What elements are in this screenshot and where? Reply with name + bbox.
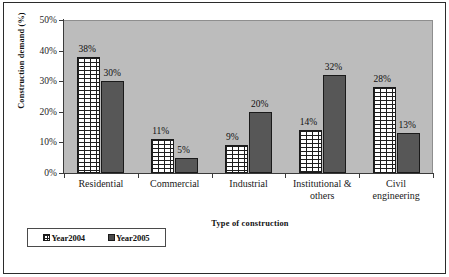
legend-item-year2005: Year2005	[108, 233, 150, 243]
category-label-civil-engineering: Civilengineering	[353, 178, 439, 201]
legend-swatch-year2005-icon	[108, 234, 115, 241]
bar-year2005-commercial	[175, 158, 198, 173]
y-axis-tick-label: 0%	[23, 169, 57, 179]
bar-value-label: 5%	[177, 146, 190, 156]
bar-year2005-institutional-others	[323, 75, 346, 173]
bar-year2004-institutional-others	[299, 130, 322, 173]
y-axis-tick	[59, 81, 64, 82]
bar-year2004-industrial	[225, 145, 248, 173]
x-axis-line	[63, 173, 434, 174]
bar-value-label: 28%	[374, 75, 391, 85]
bar-year2004-commercial	[151, 139, 174, 173]
y-axis-tick-label: 10%	[23, 138, 57, 148]
x-axis-title: Type of construction	[160, 219, 340, 228]
y-axis-tick	[59, 142, 64, 143]
y-axis-tick-label: 40%	[23, 47, 57, 57]
y-axis-title: Construction demand (%)	[17, 0, 26, 126]
y-axis-line	[63, 19, 64, 174]
bar-value-label: 11%	[152, 127, 169, 137]
bar-value-label: 13%	[399, 121, 416, 131]
y-axis-tick-label: 50%	[23, 16, 57, 26]
bar-value-label: 38%	[78, 45, 95, 55]
chart-figure: 0%10%20%30%40%50% Construction demand (%…	[0, 0, 449, 277]
bar-year2005-industrial	[249, 112, 272, 173]
bar-year2005-civil-engineering	[397, 133, 420, 173]
chart-legend: Year2004 Year2005	[27, 228, 166, 247]
bar-value-label: 20%	[251, 100, 268, 110]
category-label-line: engineering	[353, 190, 439, 202]
legend-swatch-year2004-icon	[43, 234, 50, 241]
y-axis-tick	[59, 112, 64, 113]
legend-label-year2004: Year2004	[51, 233, 85, 243]
bar-year2004-civil-engineering	[373, 87, 396, 173]
bar-value-label: 9%	[226, 133, 239, 143]
y-axis-tick-label: 20%	[23, 108, 57, 118]
bar-value-label: 14%	[300, 118, 317, 128]
y-axis-tick	[59, 51, 64, 52]
category-label-line: Civil	[353, 178, 439, 190]
bar-year2005-residential	[101, 81, 124, 173]
bar-year2004-residential	[77, 57, 100, 173]
legend-item-year2004: Year2004	[43, 233, 85, 243]
legend-label-year2005: Year2005	[116, 233, 150, 243]
bar-value-label: 32%	[325, 63, 342, 73]
y-axis-tick	[59, 20, 64, 21]
bar-value-label: 30%	[103, 69, 120, 79]
y-axis-tick-label: 30%	[23, 77, 57, 87]
